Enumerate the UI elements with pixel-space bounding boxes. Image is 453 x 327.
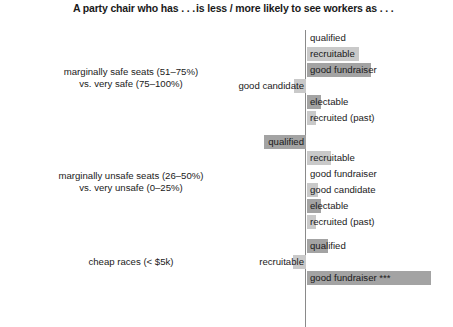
bar-row: recruitable <box>0 46 453 62</box>
bar-label: electable <box>310 95 451 109</box>
group-label: cheap races (< $5k) <box>0 256 262 269</box>
group-label: marginally unsafe seats (26–50%)vs. very… <box>0 170 262 195</box>
group-label-line: vs. very unsafe (0–25%) <box>0 182 262 195</box>
group-label: marginally safe seats (51–75%)vs. very s… <box>0 66 262 91</box>
bar-row: recruited (past) <box>0 110 453 126</box>
group-label-line: marginally unsafe seats (26–50%) <box>0 170 262 183</box>
bar-row: qualified <box>0 30 453 46</box>
bar-label: good fundraiser <box>310 167 451 181</box>
header-right-title: is less / more likely to see workers as … <box>196 2 453 14</box>
bar-label: good fundraiser *** <box>310 271 451 285</box>
bar-label: recruited (past) <box>310 111 451 125</box>
bar-row: recruitable <box>0 150 453 166</box>
bar-label: good fundraiser <box>310 63 451 77</box>
group-label-line: vs. very safe (75–100%) <box>0 78 262 91</box>
group-label-line: marginally safe seats (51–75%) <box>0 66 262 79</box>
bar-row: electable <box>0 198 453 214</box>
bar-row: electable <box>0 94 453 110</box>
bar-label: recruitable <box>310 151 451 165</box>
chart-plot-area: qualifiedrecruitablegood fundraisergood … <box>0 22 453 327</box>
bar-row: good fundraiser *** <box>0 270 453 286</box>
group-label-line: cheap races (< $5k) <box>0 256 262 269</box>
bar-label: good candidate <box>310 183 451 197</box>
bar-label: recruited (past) <box>310 215 451 229</box>
chart-header: A party chair who has . . . is less / mo… <box>0 2 453 18</box>
bar-label: qualified <box>310 239 451 253</box>
bar-row: qualified <box>0 238 453 254</box>
bar-label: electable <box>310 199 451 213</box>
bar-label: qualified <box>0 135 304 149</box>
bar-row: qualified <box>0 134 453 150</box>
bar-label: qualified <box>310 31 451 45</box>
bar-label: recruitable <box>310 47 451 61</box>
bar-row: recruited (past) <box>0 214 453 230</box>
